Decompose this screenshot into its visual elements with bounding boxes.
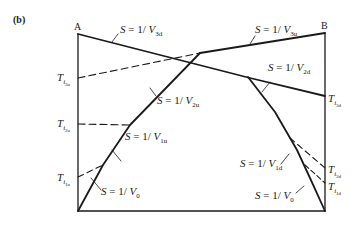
label-v2d: S = 1/ V2d <box>268 62 310 76</box>
label-v3d: S = 1/ V3d <box>120 24 162 38</box>
label-v0-left: S = 1/ V0 <box>101 186 140 200</box>
label-v2u: S = 1/ V2u <box>157 95 199 109</box>
dashed-ti3u <box>78 53 200 78</box>
dashed-ti2d <box>290 138 325 168</box>
label-v0-right: S = 1/ V0 <box>255 190 294 204</box>
intercept-ti2d: Ti2d <box>328 164 341 179</box>
leader-v1u <box>112 150 121 161</box>
label-v1u: S = 1/ V1u <box>125 131 167 145</box>
intercept-ti3u: Ti3u <box>57 72 70 87</box>
leader-v0-right <box>296 186 304 193</box>
dashed-ti2u <box>78 124 130 125</box>
point-b: B <box>321 20 328 31</box>
intercept-ti3d: Ti3d <box>328 93 341 108</box>
leader-v3d <box>112 34 118 42</box>
intercept-ti1u: Ti1u <box>57 172 70 187</box>
label-v3u: S = 1/ V3u <box>255 24 297 38</box>
leader-v2u <box>150 88 156 96</box>
label-v1d: S = 1/ V1d <box>240 158 282 172</box>
intercept-ti2u: Ti2u <box>57 118 70 133</box>
point-a: A <box>74 21 81 32</box>
intercept-ti1d: Ti1d <box>328 181 341 196</box>
leader-v2d <box>262 82 270 92</box>
